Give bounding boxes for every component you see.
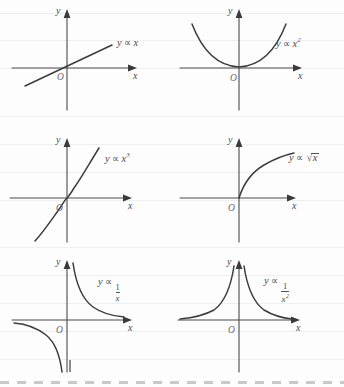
x-axis-label: x xyxy=(127,200,133,211)
denominator-exponent: 2 xyxy=(286,293,289,299)
y-axis-label: y xyxy=(55,5,61,16)
panel-sqrt: y x O y∝√x xyxy=(172,120,344,250)
equation-exponent: 2 xyxy=(298,36,302,43)
y-axis-label: y xyxy=(227,5,233,16)
x-axis-label: x xyxy=(291,200,297,211)
y-axis-arrowhead xyxy=(64,9,71,18)
x-axis-label: x xyxy=(127,322,133,333)
y-axis-arrowhead xyxy=(236,9,243,18)
y-axis-arrowhead xyxy=(236,138,243,147)
fraction-denominator: x xyxy=(116,292,120,303)
x-axis-label: x xyxy=(132,70,138,81)
x-axis-label: x xyxy=(297,70,303,81)
curve-inverse-branch3 xyxy=(14,323,62,372)
y-axis-label: y xyxy=(226,256,232,267)
origin-label: O xyxy=(56,325,63,335)
fraction-numerator: 1 xyxy=(115,283,120,293)
radical-group: √x xyxy=(305,152,317,163)
curve-linear xyxy=(25,45,112,86)
equation-quadratic: y∝x2 xyxy=(276,36,301,49)
equation-expr: x xyxy=(133,37,138,48)
panel-inverse-square: y x O y∝1x2 xyxy=(172,250,344,380)
origin-label: O xyxy=(230,73,237,83)
y-axis-label: y xyxy=(55,134,61,145)
y-axis-arrowhead xyxy=(64,260,71,269)
fraction-group: 1x xyxy=(114,283,121,304)
origin-label: O xyxy=(228,203,235,213)
curve-sqrt xyxy=(239,153,294,198)
radical-bar xyxy=(311,153,318,154)
scan-bottom-edge xyxy=(0,381,344,384)
proportional-symbol: ∝ xyxy=(269,276,280,286)
curve-inverse-square-left xyxy=(180,266,234,319)
proportional-symbol: ∝ xyxy=(281,39,292,49)
x-axis-label: x xyxy=(295,322,301,333)
equation-linear: y∝x xyxy=(117,37,139,48)
proportional-symbol: ∝ xyxy=(122,38,133,48)
fraction-numerator: 1 xyxy=(283,282,288,292)
fraction-denominator: x2 xyxy=(281,291,289,304)
equation-cubic: y∝x3 xyxy=(105,151,130,164)
origin-label: O xyxy=(56,203,63,213)
y-axis-arrowhead xyxy=(236,260,243,269)
origin-label: O xyxy=(57,72,64,82)
graph-grid: y x O y∝x y x O y∝x2 y xyxy=(0,0,344,387)
y-axis-arrowhead xyxy=(64,138,71,147)
scan-artifact-mark xyxy=(69,360,71,372)
proportional-symbol: ∝ xyxy=(103,277,114,287)
proportional-symbol: ∝ xyxy=(110,154,121,164)
equation-inverse: y∝1x xyxy=(98,276,121,303)
equation-sqrt: y∝√x xyxy=(289,152,318,163)
fraction-group: 1x2 xyxy=(280,282,290,305)
origin-label: O xyxy=(228,325,235,335)
equation-inverse-square: y∝1x2 xyxy=(264,275,290,304)
panel-linear: y x O y∝x xyxy=(0,0,172,120)
panel-quadratic: y x O y∝x2 xyxy=(172,0,344,120)
panel-cubic: y x O y∝x3 xyxy=(0,120,172,250)
proportional-symbol: ∝ xyxy=(294,153,305,163)
y-axis-label: y xyxy=(227,134,233,145)
y-axis-label: y xyxy=(55,256,61,267)
panel-inverse: y x O y∝1x xyxy=(0,250,172,380)
equation-exponent: 3 xyxy=(127,151,131,158)
